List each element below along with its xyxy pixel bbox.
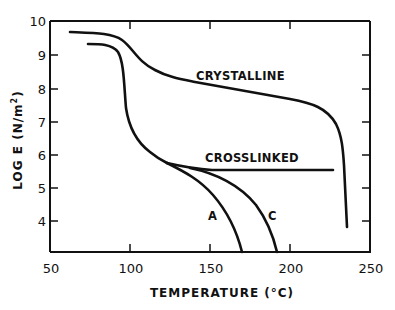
y-tick-8: 8 [38, 82, 46, 97]
curve-a [167, 163, 242, 252]
y-tick-9: 9 [38, 48, 46, 63]
y-tick-4: 4 [38, 214, 46, 229]
label-crosslinked: CROSSLINKED [205, 151, 299, 165]
y-axis-title: LOG E (N/m2) [10, 90, 25, 189]
label-c: C [268, 209, 277, 223]
label-a: A [208, 209, 217, 223]
x-tick-100: 100 [119, 261, 144, 276]
x-tick-200: 200 [279, 261, 304, 276]
x-tick-250: 250 [359, 261, 384, 276]
y-tick-5: 5 [38, 181, 46, 196]
chart: 10 9 8 7 6 5 4 50 100 150 200 250 TEMPER… [0, 0, 395, 310]
y-tick-7: 7 [38, 115, 46, 130]
y-axis-title-close: ) [11, 90, 25, 96]
x-axis-title: TEMPERATURE (°C) [150, 286, 294, 300]
label-crystalline: CRYSTALLINE [196, 69, 285, 83]
y-axis-title-main: LOG E (N/m [11, 103, 25, 189]
y-tick-labels: 10 9 8 7 6 5 4 [29, 14, 46, 229]
y-axis-title-sup: 2 [10, 97, 19, 104]
curve-c [190, 168, 277, 252]
x-tick-150: 150 [199, 261, 224, 276]
curve-amorphous [88, 44, 167, 163]
x-tick-50: 50 [43, 261, 60, 276]
curve-crystalline [70, 32, 347, 227]
y-tick-6: 6 [38, 148, 46, 163]
y-tick-10: 10 [29, 14, 46, 29]
x-tick-labels: 50 100 150 200 250 [43, 261, 384, 276]
